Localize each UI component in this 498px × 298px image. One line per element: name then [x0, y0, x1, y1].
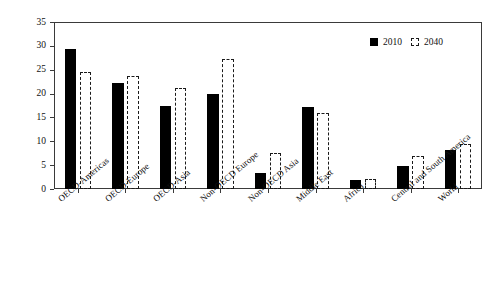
chart-legend: 2010 2040 [370, 34, 443, 50]
bar-2040-world [460, 144, 472, 189]
y-tick-label: 25 [37, 62, 47, 76]
bar-group [302, 22, 329, 189]
bar-group [255, 22, 282, 189]
y-tick-label: 15 [37, 110, 47, 124]
legend-label-2040: 2040 [424, 37, 443, 47]
y-tick-mark [50, 189, 54, 190]
y-tick: 15 [0, 117, 54, 118]
y-tick: 35 [0, 22, 54, 23]
y-tick-label: 20 [37, 86, 47, 100]
y-tick-label: 30 [37, 38, 47, 52]
bar-2010-oecd-americas [65, 49, 77, 189]
dashed-square-icon [411, 38, 419, 46]
y-tick: 5 [0, 165, 54, 166]
y-tick: 30 [0, 46, 54, 47]
bar-2010-middle-east [302, 107, 314, 189]
legend-item-2040: 2040 [411, 37, 443, 47]
bar-2010-oecd-asia [160, 106, 172, 189]
filled-square-icon [370, 38, 378, 46]
bar-2010-non-oecd-europe [207, 94, 219, 189]
y-tick-label: 5 [41, 158, 46, 172]
y-tick: 25 [0, 70, 54, 71]
energy-consumption-bar-chart: Energy consumption (million BTU) 0510152… [0, 0, 498, 298]
bar-2040-africa [365, 179, 377, 189]
y-tick-label: 0 [41, 182, 46, 196]
legend-label-2010: 2010 [383, 37, 402, 47]
bar-group [160, 22, 187, 189]
y-axis-title: Energy consumption (million BTU) [0, 0, 1, 42]
y-tick-label: 35 [37, 15, 47, 29]
y-tick-label: 10 [37, 134, 47, 148]
bar-group [112, 22, 139, 189]
bar-2010-oecd-europe [112, 83, 124, 189]
bar-group [445, 22, 472, 189]
y-tick: 10 [0, 141, 54, 142]
y-tick: 20 [0, 94, 54, 95]
bar-group [65, 22, 92, 189]
y-tick: 0 [0, 189, 54, 190]
legend-item-2010: 2010 [370, 37, 402, 47]
bar-group [207, 22, 234, 189]
